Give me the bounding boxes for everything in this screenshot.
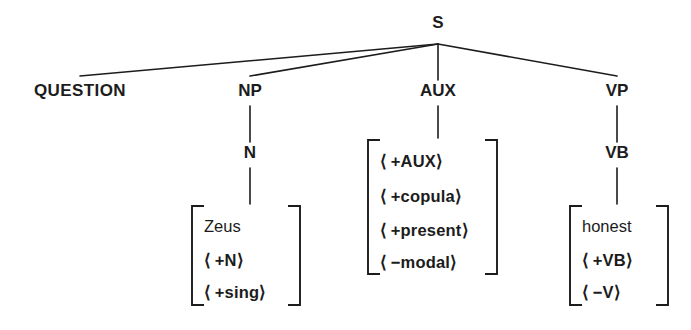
node-vp: VP [606, 81, 629, 100]
np-bracket-right [288, 206, 300, 305]
aux-bracket-right [485, 140, 497, 274]
aux-feature-item-3: ⟨ −modal⟩ [380, 253, 457, 271]
np-feature-item-1: ⟨ +N⟩ [204, 251, 244, 269]
aux-feature-matrix: ⟨ +AUX⟩ ⟨ +copula⟩ ⟨ +present⟩ ⟨ −modal⟩ [368, 140, 497, 274]
vp-feature-item-2: ⟨ −V⟩ [582, 283, 621, 301]
aux-feature-item-0: ⟨ +AUX⟩ [380, 152, 443, 170]
node-aux: AUX [420, 81, 457, 100]
vp-bracket-right [656, 206, 668, 305]
vp-feature-item-1: ⟨ +VB⟩ [582, 251, 633, 269]
aux-feature-item-2: ⟨ +present⟩ [380, 221, 469, 239]
np-feature-item-0: Zeus [204, 217, 241, 235]
node-n: N [244, 143, 256, 162]
node-np: NP [238, 81, 262, 100]
aux-bracket-left [368, 140, 380, 274]
edge-s-to-question [80, 44, 438, 76]
np-feature-item-2: ⟨ +sing⟩ [204, 283, 266, 301]
np-feature-matrix: Zeus ⟨ +N⟩ ⟨ +sing⟩ [192, 206, 300, 305]
vp-feature-matrix: honest ⟨ +VB⟩ ⟨ −V⟩ [570, 206, 668, 305]
node-vb: VB [605, 143, 629, 162]
edge-s-to-np [250, 44, 438, 76]
vp-bracket-left [570, 206, 582, 305]
np-bracket-left [192, 206, 204, 305]
edge-s-to-vp [438, 44, 617, 76]
aux-feature-item-1: ⟨ +copula⟩ [380, 187, 462, 205]
node-question: QUESTION [34, 81, 126, 100]
vp-feature-item-0: honest [582, 217, 632, 235]
syntax-tree-diagram: S QUESTION NP N Zeus ⟨ +N⟩ ⟨ +sing⟩ AUX … [0, 0, 691, 330]
tree-edges [80, 44, 617, 80]
node-s: S [432, 13, 443, 32]
